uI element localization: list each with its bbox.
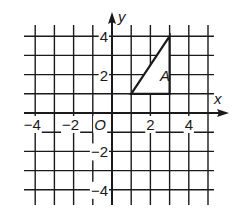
origin-label: O	[94, 116, 106, 133]
x-tick-label: 4	[185, 116, 193, 133]
y-axis-label: y	[117, 8, 127, 25]
coordinate-grid: A −4−22442−2−4Oxy	[0, 0, 235, 213]
x-tick-label: −4	[24, 116, 41, 133]
y-tick-label: 2	[100, 67, 108, 84]
x-tick-label: 2	[146, 116, 154, 133]
y-tick-label: −4	[91, 182, 108, 199]
shape-label: A	[159, 67, 170, 84]
grid-lines	[24, 25, 214, 205]
x-tick-label: −2	[62, 116, 79, 133]
x-axis-label: x	[213, 90, 222, 107]
y-tick-label: 4	[100, 28, 108, 45]
y-tick-label: −2	[91, 143, 108, 160]
